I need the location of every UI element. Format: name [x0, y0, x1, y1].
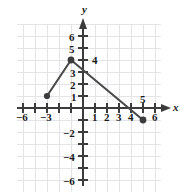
x-tick-label-2: 2	[104, 112, 110, 123]
y-axis	[79, 18, 87, 186]
endpoint-value-label: 5	[140, 94, 146, 105]
x-tick-label-3: 3	[116, 112, 122, 123]
y-axis-label: y	[82, 4, 87, 15]
x-tick-label-6: 6	[152, 112, 158, 123]
endpoint-right	[140, 117, 147, 124]
y-tick-label-neg2: −2	[63, 128, 75, 139]
x-tick-label-neg3: −3	[40, 112, 52, 123]
y-tick-label-1: 1	[71, 92, 77, 103]
vertex-value-label: 4	[92, 55, 98, 66]
x-tick-label-neg6: −6	[16, 112, 28, 123]
vertex-point	[68, 57, 75, 64]
y-tick-label-3: 3	[70, 68, 76, 79]
y-tick-label-2: 2	[70, 80, 76, 91]
graph-figure: y x −6 −3 1 2 3 4 6 6 5 3 2 1 −2 −4 −6 4…	[0, 0, 187, 195]
x-tick-label-4: 4	[128, 112, 134, 123]
y-tick-label-5: 5	[69, 44, 75, 55]
endpoint-left	[44, 93, 50, 99]
y-tick-label-neg6: −6	[63, 176, 75, 187]
x-axis-label: x	[173, 102, 179, 113]
y-tick-label-neg4: −4	[63, 152, 75, 163]
x-tick-label-1: 1	[92, 112, 98, 123]
y-tick-label-6: 6	[69, 32, 75, 43]
coordinate-plane	[0, 0, 187, 195]
